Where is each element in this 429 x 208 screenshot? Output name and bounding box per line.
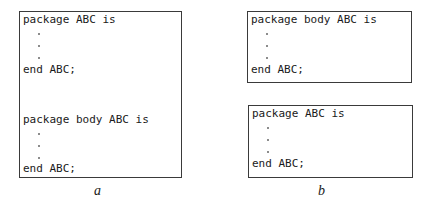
ellipsis-dot	[267, 139, 269, 141]
ellipsis-dot	[266, 33, 268, 35]
panel-a-body-first-line: package body ABC is	[23, 114, 149, 127]
panel-b-body-first-line: package body ABC is	[251, 14, 377, 27]
panel-b-caption: b	[318, 183, 325, 199]
ellipsis-dot	[38, 133, 40, 135]
ellipsis-dot	[267, 127, 269, 129]
panel-a-body-last-line: end ABC;	[23, 163, 76, 176]
ellipsis-dot	[38, 45, 40, 47]
panel-a-caption: a	[94, 183, 101, 199]
panel-b-body-last-line: end ABC;	[251, 64, 304, 77]
panel-a-box	[19, 11, 182, 178]
ellipsis-dot	[38, 157, 40, 159]
ellipsis-dot	[266, 45, 268, 47]
ellipsis-dot	[38, 145, 40, 147]
ellipsis-dot	[267, 151, 269, 153]
panel-a-spec-first-line: package ABC is	[23, 14, 116, 27]
ellipsis-dot	[38, 57, 40, 59]
ellipsis-dot	[38, 33, 40, 35]
panel-a-spec-last-line: end ABC;	[23, 64, 76, 77]
ellipsis-dot	[266, 57, 268, 59]
panel-b-spec-first-line: package ABC is	[252, 108, 345, 121]
panel-b-spec-last-line: end ABC;	[252, 158, 305, 171]
